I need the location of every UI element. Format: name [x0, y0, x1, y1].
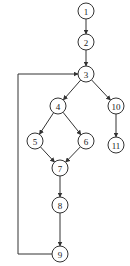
- node-label: 3: [84, 70, 89, 80]
- node-10: 10: [108, 98, 124, 114]
- node-4: 4: [50, 98, 66, 114]
- node-1: 1: [78, 3, 94, 19]
- node-3: 3: [78, 66, 94, 82]
- node-label: 11: [112, 141, 121, 151]
- node-label: 2: [84, 38, 89, 48]
- edge-4-to-6: [63, 112, 81, 135]
- node-8: 8: [52, 197, 68, 213]
- nodes: 1234105611789: [27, 3, 124, 262]
- edge-5-to-7: [40, 147, 54, 162]
- node-label: 9: [58, 250, 63, 260]
- node-7: 7: [52, 160, 68, 176]
- node-label: 10: [112, 102, 122, 112]
- node-label: 1: [84, 7, 89, 17]
- edge-9-to-3: [18, 74, 78, 254]
- node-label: 8: [58, 201, 63, 211]
- node-5: 5: [27, 133, 43, 149]
- edge-3-to-10: [91, 80, 110, 100]
- edge-3-to-4: [63, 80, 80, 100]
- node-9: 9: [52, 246, 68, 262]
- node-label: 7: [58, 164, 63, 174]
- node-label: 5: [33, 137, 38, 147]
- node-2: 2: [78, 34, 94, 50]
- edge-4-to-5: [39, 113, 53, 135]
- node-label: 4: [56, 102, 61, 112]
- node-6: 6: [78, 133, 94, 149]
- node-label: 6: [84, 137, 89, 147]
- node-11: 11: [108, 137, 124, 153]
- edge-6-to-7: [66, 147, 81, 162]
- control-flow-graph: 1234105611789: [0, 0, 130, 266]
